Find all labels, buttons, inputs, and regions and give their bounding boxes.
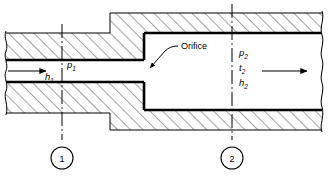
lower-left-wall-block xyxy=(6,82,110,113)
orifice-label: Orifice xyxy=(181,41,207,51)
station-2-number: 2 xyxy=(229,154,234,164)
figure-canvas: 1 2 Orifice h1 p1 p2 t2 h2 xyxy=(0,0,329,176)
upper-left-wall-block xyxy=(6,33,110,60)
orifice-pipe-diagram: 1 2 Orifice h1 p1 p2 t2 h2 xyxy=(0,0,329,176)
station-1-number: 1 xyxy=(59,154,64,164)
station-bubbles: 1 2 xyxy=(51,147,243,169)
